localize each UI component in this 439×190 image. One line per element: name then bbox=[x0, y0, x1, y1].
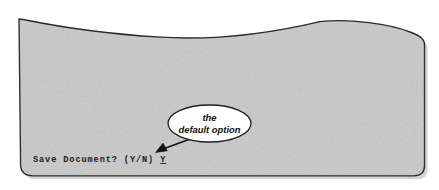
callout-line-2: default option bbox=[179, 124, 241, 135]
prompt-default-answer: Y bbox=[160, 155, 166, 165]
crt-screen-illustration: Save Document? (Y/N) Y the default optio… bbox=[0, 0, 439, 190]
annotation-callout: the default option bbox=[168, 105, 251, 142]
callout-line-1: the bbox=[202, 112, 216, 123]
prompt-message: Save Document? (Y/N) bbox=[33, 155, 154, 165]
terminal-prompt-line: Save Document? (Y/N) Y bbox=[33, 155, 166, 165]
